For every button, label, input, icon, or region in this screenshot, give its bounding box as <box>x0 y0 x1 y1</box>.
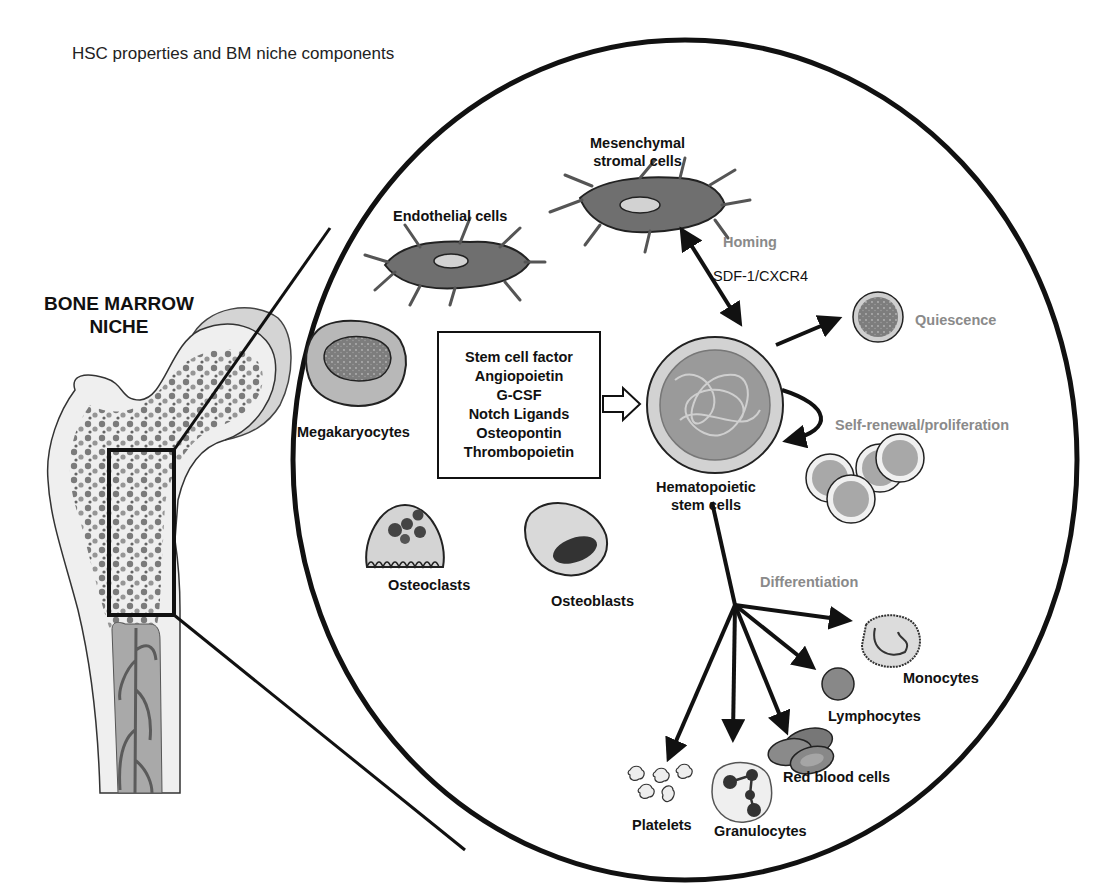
hsc-label: Hematopoietic stem cells <box>656 478 756 514</box>
femur-bone-illustration <box>48 308 291 793</box>
lymphocytes-label: Lymphocytes <box>828 707 921 725</box>
mesenchymal-label: Mesenchymal stromal cells <box>590 134 685 170</box>
quiescence-arrow <box>776 320 835 345</box>
mesenchymal-stromal-cell-icon <box>550 158 750 252</box>
red-blood-cells-label: Red blood cells <box>783 768 890 786</box>
bone-label-line1: BONE MARROW <box>44 292 194 315</box>
self-renewal-label: Self-renewal/proliferation <box>835 416 1009 434</box>
hsc-label-line2: stem cells <box>656 496 756 514</box>
factor-item: Notch Ligands <box>469 405 570 424</box>
factor-item: Osteopontin <box>476 424 561 443</box>
quiescence-label: Quiescence <box>915 311 996 329</box>
homing-axis-label: SDF-1/CXCR4 <box>713 267 808 285</box>
factor-item: Stem cell factor <box>465 348 573 367</box>
platelets-label: Platelets <box>632 816 692 834</box>
factor-item: Angiopoietin <box>475 367 564 386</box>
granulocyte-icon <box>712 763 772 823</box>
granulocytes-label: Granulocytes <box>714 822 807 840</box>
differentiation-label: Differentiation <box>760 573 858 591</box>
monocyte-icon <box>862 615 920 667</box>
megakaryocyte-icon <box>306 321 406 406</box>
mesenchymal-label-line1: Mesenchymal <box>590 134 685 152</box>
bone-marrow-niche-label: BONE MARROW NICHE <box>44 292 194 338</box>
factor-item: Thrombopoietin <box>464 443 574 462</box>
proliferating-cells-icon <box>806 434 924 523</box>
niche-factors-box: Stem cell factor Angiopoietin G-CSF Notc… <box>437 331 601 479</box>
osteoclasts-label: Osteoclasts <box>388 576 470 594</box>
factor-item: G-CSF <box>496 386 541 405</box>
endothelial-cell-icon <box>365 218 545 305</box>
differentiation-arrows <box>670 502 845 755</box>
osteoblast-icon <box>525 503 607 575</box>
quiescent-cell-icon <box>853 292 903 342</box>
hematopoietic-stem-cell-icon <box>647 337 783 473</box>
lymphocyte-icon <box>822 668 854 700</box>
homing-label: Homing <box>723 233 777 251</box>
factor-to-hsc-arrow <box>603 388 640 420</box>
megakaryocytes-label: Megakaryocytes <box>297 423 410 441</box>
platelets-icon <box>628 764 692 801</box>
endothelial-label: Endothelial cells <box>393 207 507 225</box>
hsc-label-line1: Hematopoietic <box>656 478 756 496</box>
zoom-line-bottom <box>174 615 465 850</box>
bone-label-line2: NICHE <box>44 315 194 338</box>
osteoblasts-label: Osteoblasts <box>551 592 634 610</box>
mesenchymal-label-line2: stromal cells <box>590 152 685 170</box>
osteoclast-icon <box>366 505 444 567</box>
monocytes-label: Monocytes <box>903 669 979 687</box>
self-renewal-arrow <box>782 390 821 440</box>
